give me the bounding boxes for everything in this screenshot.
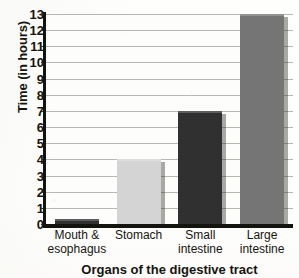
bar-side-shadow: [284, 17, 288, 224]
bar-side-shadow: [161, 162, 165, 224]
bar-chart-figure: Time (in hours) 012345678910111213 Mouth…: [0, 0, 299, 278]
bar-highlight: [178, 111, 222, 113]
bar-highlight: [240, 14, 284, 16]
bar-highlight: [117, 159, 161, 161]
bar-body: [240, 14, 284, 224]
bar: [240, 14, 284, 224]
x-axis-title: Organs of the digestive tract: [46, 262, 293, 277]
x-axis-tick-label: Small intestine: [170, 228, 232, 256]
y-axis-line: [43, 12, 46, 226]
bar: [117, 159, 161, 224]
bar-body: [117, 159, 161, 224]
x-axis-tick-label: Mouth & esophagus: [46, 228, 108, 256]
bar: [178, 111, 222, 224]
bar-body: [178, 111, 222, 224]
x-axis-tick-labels: Mouth & esophagusStomachSmall intestineL…: [46, 228, 293, 260]
x-axis-tick-label: Large intestine: [231, 228, 293, 256]
bar-side-shadow: [222, 114, 226, 224]
bar-highlight: [55, 219, 99, 221]
plot-area: [46, 14, 293, 224]
x-axis-tick-label: Stomach: [108, 228, 170, 242]
